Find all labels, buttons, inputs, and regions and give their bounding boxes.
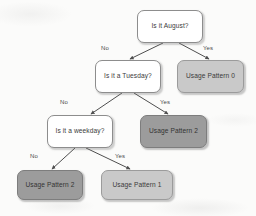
edge-label-august-yes: Yes [203,45,213,51]
node-is-it-august[interactable]: Is it August? [137,10,203,43]
node-usage-pattern-2-tuesday[interactable]: Usage Pattern 2 [140,115,207,148]
node-usage-pattern-1[interactable]: Usage Pattern 1 [101,170,173,200]
edge-label-weekday-no: No [30,153,38,159]
node-usage-pattern-0[interactable]: Usage Pattern 0 [177,60,244,93]
node-label: Usage Pattern 2 [149,128,198,135]
node-label: Usage Pattern 2 [25,182,74,189]
edge-label-august-no: No [101,45,109,51]
node-label: Is it August? [151,23,188,30]
node-label: Is it a Tuesday? [104,73,152,80]
edge-label-weekday-yes: Yes [115,153,125,159]
edge-tuesday-to-weekday [91,93,122,114]
node-label: Usage Pattern 0 [186,73,235,80]
decision-tree-diagram: Is it August? Is it a Tuesday? Usage Pat… [0,0,256,216]
node-label: Usage Pattern 1 [112,182,161,189]
node-is-it-a-tuesday[interactable]: Is it a Tuesday? [95,60,161,93]
edge-weekday-to-pattern2b [52,148,75,169]
edge-root-to-tuesday [130,43,163,59]
node-usage-pattern-2-weekend[interactable]: Usage Pattern 2 [17,170,83,200]
node-label: Is it a weekday? [56,128,105,135]
edge-label-tuesday-no: No [60,99,68,105]
node-is-it-a-weekday[interactable]: Is it a weekday? [47,115,113,148]
edge-label-tuesday-yes: Yes [160,99,170,105]
